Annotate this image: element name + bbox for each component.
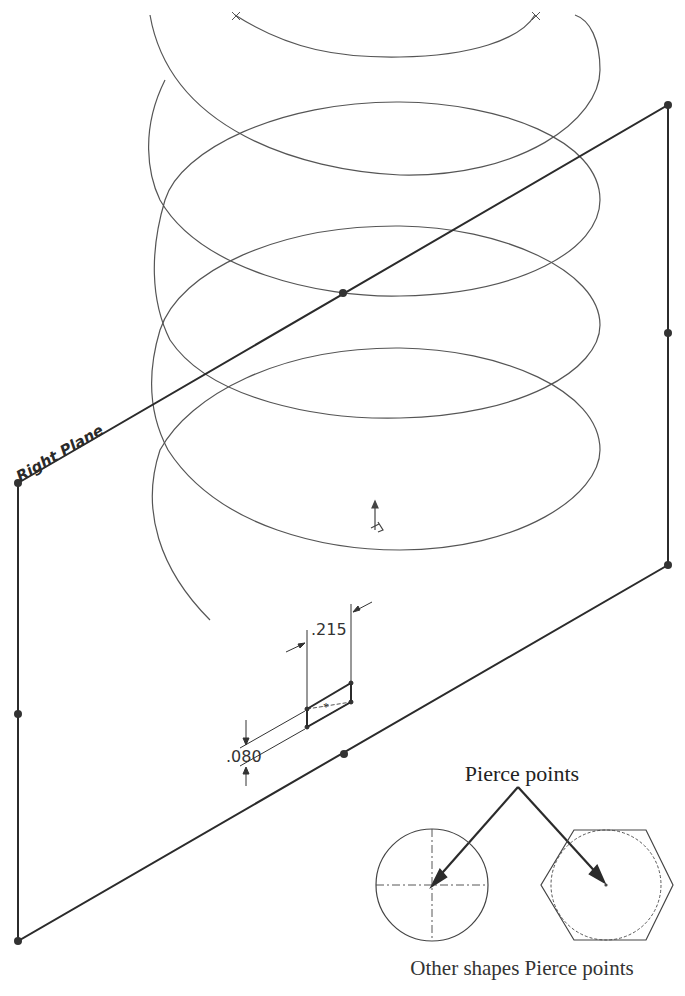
svg-text:*: * xyxy=(323,700,329,714)
drawing-canvas: Right Plane * .215 .080 Pierce point xyxy=(0,0,685,996)
plane-corner-handle[interactable] xyxy=(14,937,22,945)
plane-corner-handle[interactable] xyxy=(664,101,672,109)
origin-icon xyxy=(371,501,383,532)
plane-label: Right Plane xyxy=(13,421,107,485)
plane-edge-handle[interactable] xyxy=(339,289,347,297)
callout-arrows xyxy=(432,787,604,886)
dimension-height-value[interactable]: .080 xyxy=(226,747,262,766)
plane-handles xyxy=(14,101,672,945)
profile-sketch[interactable]: * xyxy=(305,681,353,729)
callout-caption: Other shapes Pierce points xyxy=(410,956,633,980)
dimension-width-value[interactable]: .215 xyxy=(311,620,347,639)
hexagon-shape xyxy=(541,830,673,940)
callout-title: Pierce points xyxy=(465,761,579,786)
plane-edge-handle[interactable] xyxy=(664,329,672,337)
right-plane[interactable] xyxy=(18,105,668,941)
plane-edge-handle[interactable] xyxy=(14,710,22,718)
circle-shape xyxy=(376,829,488,941)
dimension-width[interactable] xyxy=(286,602,372,709)
plane-edge-handle[interactable] xyxy=(340,750,348,758)
helix-curve xyxy=(149,12,600,620)
plane-corner-handle[interactable] xyxy=(664,561,672,569)
